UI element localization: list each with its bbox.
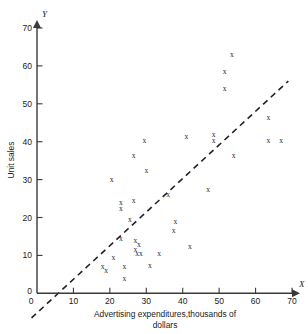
data-point: x <box>139 249 143 258</box>
y-tick-label: 70 <box>23 23 33 33</box>
data-point: x <box>172 226 176 235</box>
x-axis-ticks <box>73 288 292 294</box>
data-point: x <box>104 266 108 275</box>
y-axis-arrowhead <box>33 20 41 28</box>
data-point: x <box>119 204 123 213</box>
x-axis-name: X <box>298 279 305 289</box>
y-tick-label: 20 <box>23 213 33 223</box>
data-point: x <box>188 242 192 251</box>
data-point: x <box>230 50 234 59</box>
y-axis-title: Unit sales <box>6 142 16 179</box>
data-point: x <box>212 136 216 145</box>
data-point: x <box>174 217 178 226</box>
x-tick-label: 10 <box>69 296 79 306</box>
y-tick-label: 40 <box>23 137 33 147</box>
data-point: x <box>166 190 170 199</box>
data-point: x <box>148 261 152 270</box>
y-tick-label: 30 <box>23 175 33 185</box>
axes-group <box>33 20 300 297</box>
data-point: x <box>223 84 227 93</box>
data-point: x <box>143 136 147 145</box>
x-tick-label: 70 <box>287 296 297 306</box>
y-tick-label: 50 <box>23 99 33 109</box>
y-axis-tick-labels: 010203040506070 <box>23 23 33 296</box>
y-tick-label: 10 <box>23 250 33 260</box>
data-point: x <box>123 262 127 271</box>
x-axis-tick-labels: 010203040506070 <box>29 296 297 306</box>
data-point: x <box>157 249 161 258</box>
x-tick-label: 60 <box>251 296 261 306</box>
x-tick-label: 0 <box>29 296 34 306</box>
data-point: x <box>119 234 123 243</box>
x-tick-label: 40 <box>178 296 188 306</box>
data-point: x <box>132 196 136 205</box>
data-point: x <box>223 67 227 76</box>
data-point: x <box>132 151 136 160</box>
data-point-group: xxxxxxxxxxxxxxxxxxxxxxxxxxxxxxxxxxxx <box>101 50 284 283</box>
data-point: x <box>206 185 210 194</box>
y-tick-label: 0 <box>27 286 32 296</box>
data-point: x <box>266 136 270 145</box>
y-axis-ticks <box>37 28 43 255</box>
data-point: x <box>144 166 148 175</box>
data-point: x <box>128 215 132 224</box>
regression-line <box>32 81 289 318</box>
data-point: x <box>112 253 116 262</box>
data-point: x <box>266 113 270 122</box>
scatter-plot-svg: 010203040506070 010203040506070 xxxxxxxx… <box>0 0 308 334</box>
x-tick-label: 20 <box>105 296 115 306</box>
data-point: x <box>137 240 141 249</box>
data-point: x <box>184 132 188 141</box>
data-point: x <box>110 175 114 184</box>
data-point: x <box>123 274 127 283</box>
scatter-chart: 010203040506070 010203040506070 xxxxxxxx… <box>0 0 308 334</box>
y-tick-label: 60 <box>23 61 33 71</box>
x-tick-label: 50 <box>214 296 224 306</box>
y-axis-name: Y <box>42 9 48 19</box>
x-axis-title-line2: dollars <box>153 320 178 330</box>
x-axis-title-line1: Advertising expenditures,thousands of <box>94 309 237 319</box>
data-point: x <box>232 151 236 160</box>
x-tick-label: 30 <box>142 296 152 306</box>
data-point: x <box>279 136 283 145</box>
regression-line-group <box>32 81 289 318</box>
